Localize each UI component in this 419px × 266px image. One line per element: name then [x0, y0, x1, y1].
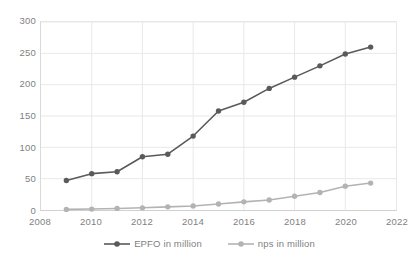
- legend-marker-icon: [104, 239, 130, 249]
- x-axis-tick-label: 2010: [71, 216, 111, 227]
- x-axis-tick-label: 2022: [377, 216, 417, 227]
- data-point-marker: [114, 169, 119, 174]
- plot-area: [40, 21, 397, 211]
- data-point-marker: [140, 154, 145, 159]
- x-axis-tick-label: 2018: [275, 216, 315, 227]
- data-point-marker: [64, 178, 69, 183]
- x-axis-tick-label: 2020: [326, 216, 366, 227]
- data-point-marker: [241, 199, 246, 204]
- data-point-marker: [368, 44, 373, 49]
- data-point-marker: [64, 207, 69, 212]
- line-chart: 050100150200250300 200820102012201420162…: [0, 0, 419, 266]
- data-point-marker: [343, 51, 348, 56]
- x-axis-tick-label: 2014: [173, 216, 213, 227]
- x-axis-tick-label: 2016: [224, 216, 264, 227]
- x-axis-tick-label: 2012: [122, 216, 162, 227]
- data-point-marker: [190, 133, 195, 138]
- data-point-marker: [368, 180, 373, 185]
- y-axis-tick-label: 300: [2, 16, 36, 26]
- data-point-marker: [114, 206, 119, 211]
- y-axis-tick-label: 0: [2, 206, 36, 216]
- chart-legend: EPFO in millionnps in million: [0, 238, 419, 249]
- data-point-marker: [165, 152, 170, 157]
- data-point-marker: [165, 204, 170, 209]
- data-point-marker: [343, 184, 348, 189]
- y-axis-tick-label: 50: [2, 174, 36, 184]
- data-point-marker: [216, 108, 221, 113]
- data-point-marker: [317, 63, 322, 68]
- y-axis-tick-label: 150: [2, 111, 36, 121]
- y-axis-tick-label: 100: [2, 143, 36, 153]
- legend-item[interactable]: EPFO in million: [104, 238, 202, 249]
- data-point-marker: [140, 205, 145, 210]
- legend-marker-icon: [228, 239, 254, 249]
- data-point-marker: [267, 197, 272, 202]
- data-point-marker: [216, 201, 221, 206]
- data-point-marker: [89, 206, 94, 211]
- y-axis-tick-label: 250: [2, 48, 36, 58]
- data-point-marker: [267, 86, 272, 91]
- data-point-marker: [317, 190, 322, 195]
- legend-label: EPFO in million: [134, 238, 202, 249]
- legend-item[interactable]: nps in million: [228, 238, 315, 249]
- data-point-marker: [292, 194, 297, 199]
- series-line: [66, 47, 370, 180]
- data-point-marker: [190, 203, 195, 208]
- data-point-marker: [292, 74, 297, 79]
- data-series-layer: [41, 22, 396, 210]
- legend-label: nps in million: [258, 238, 315, 249]
- y-axis-tick-label: 200: [2, 79, 36, 89]
- data-point-marker: [89, 171, 94, 176]
- data-point-marker: [241, 100, 246, 105]
- x-axis-tick-label: 2008: [20, 216, 60, 227]
